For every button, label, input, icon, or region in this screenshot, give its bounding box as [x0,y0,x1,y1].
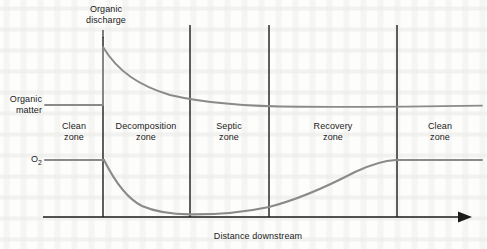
zone-label-decomposition-line1: Decomposition [116,121,177,131]
x-axis-label: Distance downstream [214,231,302,242]
oxygen-sag-curve [45,160,482,214]
zone-label-clean-upstream-line1: Clean [62,121,86,131]
zone-label-recovery: Recovery zone [314,121,353,143]
zone-label-decomposition-line2: zone [136,132,156,142]
organic-discharge-label-line2: discharge [86,15,126,25]
oxygen-label-subscript: 2 [38,159,42,166]
figure-container: Organic discharge Organic matter O2 Clea… [0,0,487,249]
organic-matter-label-line2: matter [16,105,42,115]
organic-matter-label-line1: Organic [10,94,42,104]
organic-matter-axis-label: Organic matter [10,94,42,116]
zone-label-clean-downstream-line2: zone [430,132,450,142]
zone-label-septic: Septic zone [216,121,242,143]
zone-label-recovery-line2: zone [323,132,343,142]
zone-label-septic-line2: zone [219,132,239,142]
x-axis [43,212,472,223]
zone-label-clean-downstream: Clean zone [428,121,452,143]
organic-discharge-label-line1: Organic [90,4,122,14]
zone-label-recovery-line1: Recovery [314,121,353,131]
oxygen-sag-path [104,160,396,214]
zone-label-clean-upstream-line2: zone [64,132,84,142]
zone-label-clean-downstream-line1: Clean [428,121,452,131]
organic-matter-decay [103,47,482,107]
x-axis-arrowhead [458,212,472,223]
oxygen-axis-label: O2 [31,154,42,168]
organic-discharge-annotation: Organic discharge [86,4,126,26]
zone-label-decomposition: Decomposition zone [116,121,177,143]
zone-label-septic-line1: Septic [216,121,242,131]
zone-label-clean-upstream: Clean zone [62,121,86,143]
organic-matter-curve [45,47,482,107]
